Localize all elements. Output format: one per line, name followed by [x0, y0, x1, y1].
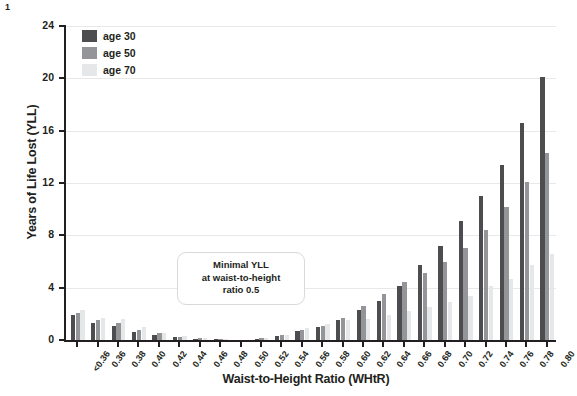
bar: [173, 337, 177, 340]
bar: [152, 335, 156, 340]
bar: [255, 339, 259, 340]
x-axis-tick-label: 0.66: [415, 349, 433, 369]
y-axis-tick-label: 24: [28, 19, 54, 31]
bar: [162, 333, 166, 340]
bar: [438, 246, 442, 340]
bar: [479, 196, 483, 340]
x-axis-tick: [464, 340, 466, 347]
legend-label: age 30: [103, 30, 136, 42]
bar: [418, 265, 422, 340]
legend-item: age 50: [82, 45, 136, 60]
bar: [484, 230, 488, 340]
x-axis-tick: [76, 340, 78, 347]
bar: [112, 326, 116, 340]
annotation-line-2: at waist-to-height: [182, 272, 300, 285]
bar: [361, 306, 365, 340]
bar-series-container: [66, 26, 556, 340]
bar: [407, 311, 411, 340]
bar: [377, 301, 381, 340]
legend: age 30age 50age 70: [82, 28, 136, 79]
x-axis-tick-label: 0.80: [558, 349, 576, 369]
x-axis-tick-label: 0.54: [293, 349, 311, 369]
x-axis-tick-label: 0.50: [252, 349, 270, 369]
bar: [91, 323, 95, 340]
bar-group: [316, 26, 330, 340]
x-axis-tick: [444, 340, 446, 347]
x-axis-tick-label: 0.44: [191, 349, 209, 369]
x-axis-tick: [362, 340, 364, 347]
bar: [423, 273, 427, 340]
bar: [550, 254, 554, 340]
bar: [366, 319, 370, 340]
x-axis-tick-label: 0.68: [436, 349, 454, 369]
bar-group: [438, 26, 452, 340]
bar-group: [520, 26, 534, 340]
x-axis-tick: [199, 340, 201, 347]
bar: [223, 339, 227, 340]
x-axis-tick-label: 0.58: [334, 349, 352, 369]
x-axis-tick-label: 0.56: [313, 349, 331, 369]
y-axis-tick-label: 0: [28, 333, 54, 345]
bar-group: [377, 26, 391, 340]
annotation-line-1: Minimal YLL: [182, 259, 300, 272]
x-axis-tick: [178, 340, 180, 347]
bar: [325, 324, 329, 340]
legend-label: age 70: [103, 64, 136, 76]
x-axis-tick: [260, 340, 262, 347]
x-axis-tick: [117, 340, 119, 347]
x-axis-tick: [219, 340, 221, 347]
figure-number: 1: [5, 2, 10, 12]
x-axis-tick-label: 0.42: [170, 349, 188, 369]
bar: [509, 279, 513, 340]
y-axis-tick-label: 16: [28, 124, 54, 136]
x-axis-tick: [137, 340, 139, 347]
y-axis-tick-label: 12: [28, 176, 54, 188]
bar: [525, 182, 529, 340]
bar: [193, 339, 197, 340]
x-axis-tick-label: 0.76: [517, 349, 535, 369]
x-axis-tick: [546, 340, 548, 347]
legend-item: age 70: [82, 62, 136, 77]
bar: [275, 336, 279, 340]
y-axis-tick: [59, 25, 66, 27]
x-axis-tick-label: 0.64: [395, 349, 413, 369]
bar-group: [500, 26, 514, 340]
annotation-line-3: ratio 0.5: [182, 284, 300, 297]
bar: [463, 248, 467, 340]
y-axis-tick-label: 8: [28, 228, 54, 240]
bar: [316, 327, 320, 340]
bar: [443, 262, 447, 341]
x-axis-tick: [505, 340, 507, 347]
bar: [387, 315, 391, 340]
x-axis-tick-label: 0.72: [477, 349, 495, 369]
annotation-minimal-yll: Minimal YLL at waist-to-height ratio 0.5: [177, 252, 305, 305]
x-axis-title: Waist-to-Height Ratio (WHtR): [56, 372, 556, 386]
bar: [448, 302, 452, 340]
bar: [80, 310, 84, 340]
x-axis-tick: [382, 340, 384, 347]
x-axis-tick-label: 0.62: [375, 349, 393, 369]
y-axis-tick-label: 4: [28, 281, 54, 293]
bar: [341, 318, 345, 340]
x-axis-tick: [158, 340, 160, 347]
bar: [137, 330, 141, 340]
y-axis-tick: [59, 339, 66, 341]
bar: [545, 153, 549, 340]
bar: [300, 330, 304, 340]
bar: [520, 123, 524, 340]
bar: [357, 310, 361, 340]
bar: [203, 338, 207, 340]
y-axis-tick-label: 20: [28, 71, 54, 83]
bar-group: [336, 26, 350, 340]
x-axis-tick-label: 0.40: [150, 349, 168, 369]
bar-group: [397, 26, 411, 340]
bar: [71, 315, 75, 340]
bar: [132, 332, 136, 340]
bar: [504, 207, 508, 340]
legend-swatch: [82, 64, 97, 76]
x-axis-tick: [525, 340, 527, 347]
y-axis-tick: [59, 77, 66, 79]
bar: [489, 286, 493, 340]
bar: [96, 320, 100, 340]
bar: [500, 165, 504, 340]
